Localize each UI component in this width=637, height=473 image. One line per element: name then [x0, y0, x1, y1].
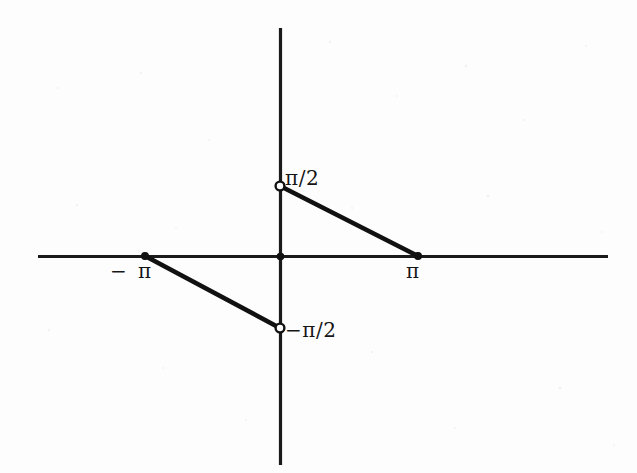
y-tick-label-pi-over-2: π/2 — [285, 168, 319, 188]
graph-figure: π/2 −π/2 − π π — [0, 0, 637, 473]
coordinate-plot — [0, 0, 637, 473]
x-tick-label-neg-pi: − π — [110, 261, 154, 281]
open-endpoint-pi-over-2 — [276, 182, 285, 191]
graph-segment-left — [146, 257, 279, 328]
x-tick-label-pi: π — [406, 261, 420, 281]
graph-segment-right — [281, 187, 417, 256]
open-endpoint-neg-pi-over-2 — [276, 324, 285, 333]
y-tick-label-neg-pi-over-2: −π/2 — [285, 320, 336, 340]
origin-point — [277, 253, 283, 259]
